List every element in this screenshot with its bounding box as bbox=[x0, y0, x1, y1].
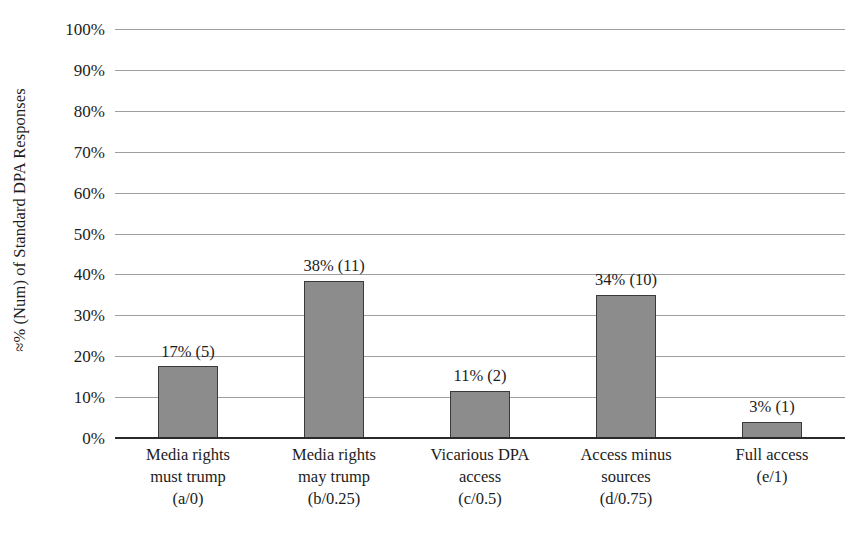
bar-value-label: 38% (11) bbox=[303, 258, 364, 275]
x-axis-category-label: Vicarious DPAaccess(c/0.5) bbox=[407, 444, 553, 509]
plot-area: 17% (5)38% (11)11% (2)34% (10)3% (1) bbox=[115, 29, 845, 438]
x-axis-category-label-line: Media rights bbox=[115, 444, 261, 466]
x-axis-category-label-line: Media rights bbox=[261, 444, 407, 466]
x-axis-category-label-line: Access minus bbox=[553, 444, 699, 466]
bar-chart: ≈% (Num) of Standard DPA Responses 100%9… bbox=[0, 0, 858, 548]
bar-group[interactable]: 38% (11) bbox=[304, 29, 364, 438]
x-axis-category-label-line: (e/1) bbox=[699, 466, 845, 488]
y-axis-title-text: ≈% (Num) of Standard DPA Responses bbox=[10, 88, 30, 351]
y-axis-tick-label: 30% bbox=[74, 307, 105, 324]
y-axis-tick-label: 20% bbox=[74, 348, 105, 365]
bar[interactable] bbox=[450, 391, 510, 438]
y-axis-tick-labels: 100%90%80%70%60%50%40%30%20%10%0% bbox=[40, 29, 110, 438]
y-axis-tick-label: 90% bbox=[74, 61, 105, 78]
bar[interactable] bbox=[596, 295, 656, 438]
x-axis-category-label-line: Vicarious DPA bbox=[407, 444, 553, 466]
y-axis-tick-label: 0% bbox=[82, 430, 105, 447]
x-axis-category-label: Access minussources(d/0.75) bbox=[553, 444, 699, 509]
y-axis-tick-label: 80% bbox=[74, 102, 105, 119]
y-axis-tick-label: 10% bbox=[74, 389, 105, 406]
y-axis-title: ≈% (Num) of Standard DPA Responses bbox=[0, 0, 40, 440]
x-axis-category-label: Media rightsmay trump(b/0.25) bbox=[261, 444, 407, 509]
x-axis-category-label-line: sources bbox=[553, 466, 699, 488]
x-axis-category-label-line: (d/0.75) bbox=[553, 488, 699, 510]
x-axis-category-label-line: must trump bbox=[115, 466, 261, 488]
y-axis-tick-label: 50% bbox=[74, 225, 105, 242]
bar-group[interactable]: 34% (10) bbox=[596, 29, 656, 438]
bar-value-label: 17% (5) bbox=[161, 344, 215, 361]
x-axis-category-label-line: (a/0) bbox=[115, 488, 261, 510]
bar-value-label: 3% (1) bbox=[749, 399, 794, 416]
bars-layer: 17% (5)38% (11)11% (2)34% (10)3% (1) bbox=[115, 29, 845, 438]
y-axis-tick-label: 40% bbox=[74, 266, 105, 283]
bar-value-label: 34% (10) bbox=[595, 272, 657, 289]
x-axis-category-label: Media rightsmust trump(a/0) bbox=[115, 444, 261, 509]
bar-group[interactable]: 11% (2) bbox=[450, 29, 510, 438]
y-axis-tick-label: 100% bbox=[65, 21, 105, 38]
x-axis-category-label: Full access(e/1) bbox=[699, 444, 845, 488]
bar[interactable] bbox=[742, 422, 802, 438]
x-axis-category-label-line: may trump bbox=[261, 466, 407, 488]
bar-group[interactable]: 17% (5) bbox=[158, 29, 218, 438]
x-axis-category-label-line: (c/0.5) bbox=[407, 488, 553, 510]
y-axis-tick-label: 60% bbox=[74, 184, 105, 201]
bar[interactable] bbox=[304, 281, 364, 438]
x-axis-line bbox=[115, 437, 845, 439]
x-axis-category-label-line: (b/0.25) bbox=[261, 488, 407, 510]
bar-value-label: 11% (2) bbox=[454, 368, 507, 385]
x-axis-category-labels: Media rightsmust trump(a/0)Media rightsm… bbox=[115, 444, 845, 544]
bar-group[interactable]: 3% (1) bbox=[742, 29, 802, 438]
bar[interactable] bbox=[158, 366, 218, 438]
x-axis-category-label-line: Full access bbox=[699, 444, 845, 466]
y-axis-tick-label: 70% bbox=[74, 143, 105, 160]
x-axis-category-label-line: access bbox=[407, 466, 553, 488]
